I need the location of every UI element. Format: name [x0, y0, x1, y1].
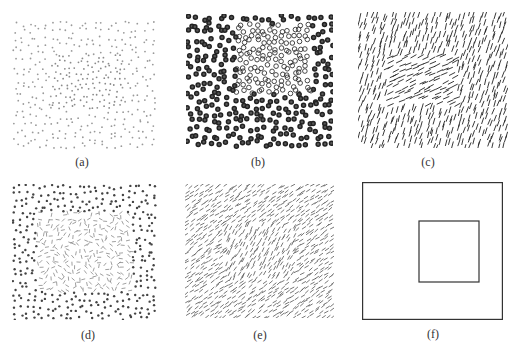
panel-d-dot-vs-line-texture: [12, 184, 158, 320]
panel-a-dot-density-texture: [12, 20, 158, 150]
caption-d: (d): [68, 328, 108, 343]
panel-c-orientation-texture: [358, 12, 508, 148]
caption-f: (f): [413, 327, 453, 342]
caption-a: (a): [62, 155, 102, 170]
caption-e: (e): [240, 328, 280, 343]
panel-b-ring-texture: [186, 14, 333, 150]
panel-f-segmentation-squares: [362, 182, 503, 320]
caption-b: (b): [238, 155, 278, 170]
panel-e-orientation-texture: [185, 184, 334, 318]
caption-c: (c): [408, 155, 448, 170]
